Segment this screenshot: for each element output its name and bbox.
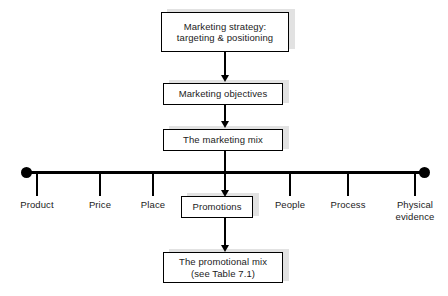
axis-tick-physical-evidence: [414, 172, 416, 196]
connector-strategy-to-objectives: [224, 52, 226, 76]
axis-label-physical-evidence-line-1: Physical: [396, 199, 435, 211]
axis-label-price-text: Price: [89, 199, 111, 211]
arrowhead-promotions-to-promotional-mix: [221, 245, 229, 252]
connector-promotions-to-promotional-mix: [224, 218, 226, 248]
axis-label-people: People: [275, 199, 305, 211]
marketing-strategy-box: Marketing strategy: targeting & position…: [161, 12, 289, 52]
axis-left-endpoint-dot: [21, 167, 32, 178]
axis-label-people-text: People: [275, 199, 305, 211]
axis-label-physical-evidence: Physical evidence: [396, 199, 435, 222]
axis-tick-people: [289, 172, 291, 196]
promotional-mix-line-1: The promotional mix: [179, 256, 267, 268]
connector-objectives-to-mix: [224, 105, 226, 122]
axis-tick-process: [347, 172, 349, 196]
axis-label-price: Price: [89, 199, 111, 211]
axis-label-product: Product: [20, 199, 53, 211]
arrowhead-strategy-to-objectives: [221, 75, 229, 82]
axis-label-process-text: Process: [330, 199, 365, 211]
axis-tick-price: [99, 172, 101, 196]
promotions-label: Promotions: [192, 201, 241, 213]
axis-right-endpoint-dot: [419, 167, 430, 178]
marketing-mix-label: The marketing mix: [183, 134, 263, 146]
axis-label-product-text: Product: [20, 199, 53, 211]
marketing-strategy-line-1: Marketing strategy:: [184, 21, 267, 33]
marketing-objectives-label: Marketing objectives: [179, 88, 268, 100]
flow-diagram: Marketing strategy: targeting & position…: [0, 0, 448, 296]
axis-label-process: Process: [330, 199, 365, 211]
axis-tick-product: [36, 172, 38, 196]
axis-label-place: Place: [141, 199, 165, 211]
marketing-mix-box: The marketing mix: [163, 129, 283, 151]
axis-label-physical-evidence-line-2: evidence: [396, 211, 435, 223]
axis-label-place-text: Place: [141, 199, 165, 211]
promotions-box: Promotions: [181, 196, 253, 218]
marketing-objectives-box: Marketing objectives: [163, 83, 283, 105]
promotional-mix-box: The promotional mix (see Table 7.1): [163, 252, 283, 283]
arrowhead-objectives-to-mix: [221, 121, 229, 128]
promotional-mix-line-2: (see Table 7.1): [191, 268, 255, 280]
axis-tick-place: [152, 172, 154, 196]
marketing-strategy-line-2: targeting & positioning: [177, 32, 273, 44]
